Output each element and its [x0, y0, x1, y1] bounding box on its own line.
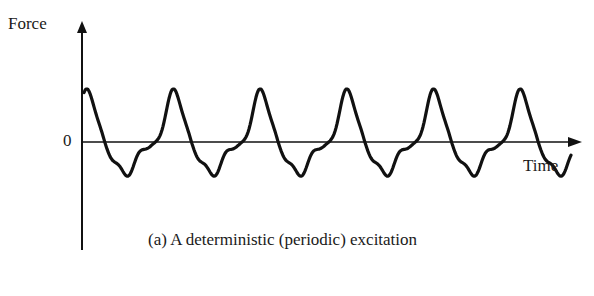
y-axis-label: Force	[8, 14, 47, 34]
plot-canvas	[0, 0, 594, 296]
y-axis-arrow-icon	[77, 21, 87, 33]
x-axis-label: Time	[523, 156, 558, 176]
figure-caption: (a) A deterministic (periodic) excitatio…	[148, 230, 417, 250]
zero-tick-label: 0	[63, 131, 72, 151]
x-axis-arrow-icon	[568, 137, 582, 147]
force-waveform	[84, 89, 571, 176]
